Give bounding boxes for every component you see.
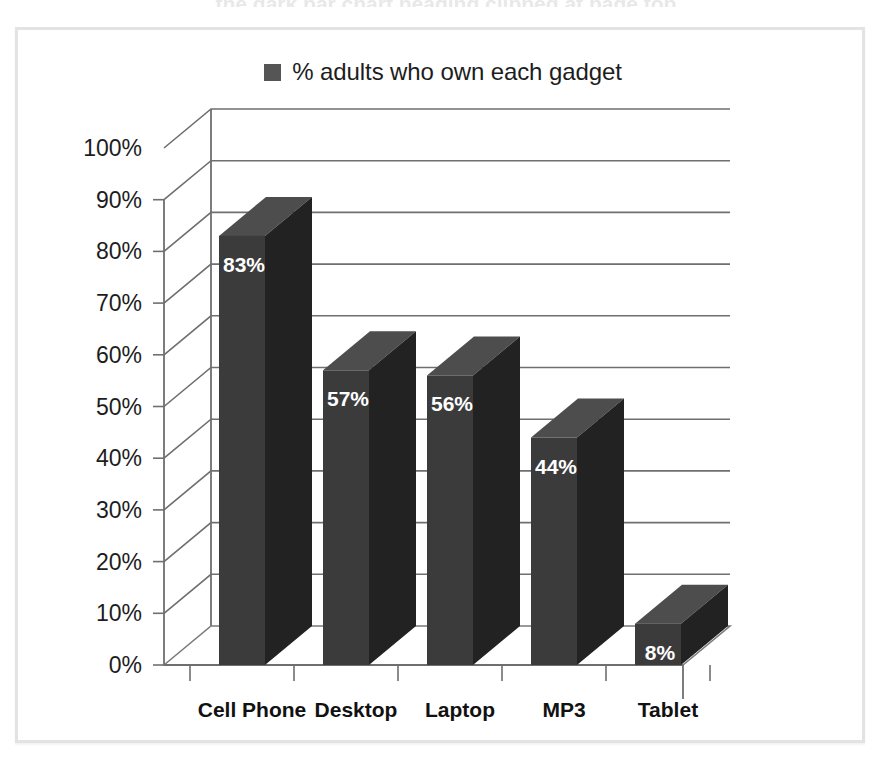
bar-laptop [427, 336, 520, 665]
x-tick-label: Cell Phone [198, 698, 307, 721]
y-tick-label: 100% [83, 135, 142, 161]
x-tick-label: Desktop [315, 698, 398, 721]
y-tick-label: 0% [109, 652, 142, 678]
gridline [164, 161, 730, 200]
y-tick-label: 30% [96, 497, 142, 523]
y-tick-label: 50% [96, 394, 142, 420]
bar-value-label: 56% [431, 392, 473, 415]
bar-chart-svg: 0%10%20%30%40%50%60%70%80%90%100% Cell P… [18, 30, 868, 746]
y-axis-tick-labels: 0%10%20%30%40%50%60%70%80%90%100% [83, 135, 142, 678]
bar-value-label: 57% [327, 387, 369, 410]
y-tick-label: 60% [96, 342, 142, 368]
gridline [164, 109, 730, 148]
y-tick-label: 80% [96, 238, 142, 264]
y-tick-label: 70% [96, 290, 142, 316]
x-tick-label: Tablet [638, 698, 698, 721]
x-axis-tick-labels: Cell PhoneDesktopLaptopMP3Tablet [198, 698, 698, 721]
bar-mp3 [531, 399, 624, 665]
bar-value-label: 8% [645, 641, 676, 664]
bar-value-label: 83% [223, 253, 265, 276]
chart-frame: % adults who own each gadget 0%10%20%30%… [15, 27, 865, 743]
y-tick-label: 90% [96, 187, 142, 213]
y-tick-label: 10% [96, 600, 142, 626]
plot-area: 0%10%20%30%40%50%60%70%80%90%100% Cell P… [18, 30, 868, 746]
x-tick-label: Laptop [425, 698, 495, 721]
y-tick-label: 40% [96, 445, 142, 471]
x-tick-label: MP3 [542, 698, 585, 721]
bar-desktop [323, 331, 416, 665]
scan-top-artifact: the dark bar chart heading clipped at pa… [0, 0, 892, 7]
y-tick-label: 20% [96, 549, 142, 575]
bar-value-label: 44% [535, 455, 577, 478]
bars-group [219, 197, 728, 665]
